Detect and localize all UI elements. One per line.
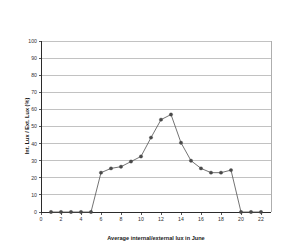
x-tick-label: 8	[120, 216, 123, 222]
chart-container: 0246810121416182022 01020304050607080901…	[0, 0, 298, 251]
data-point-marker	[109, 167, 112, 170]
data-point-marker	[49, 210, 52, 213]
data-point-marker	[169, 113, 172, 116]
data-point-marker	[69, 210, 72, 213]
y-tick-label: 60	[31, 106, 37, 112]
data-point-marker	[59, 210, 62, 213]
data-point-marker	[99, 171, 102, 174]
x-tick-label: 10	[138, 216, 144, 222]
data-point-marker	[219, 171, 222, 174]
x-tick-label: 6	[100, 216, 103, 222]
x-tick-label: 18	[218, 216, 224, 222]
y-tick-label: 30	[31, 158, 37, 164]
y-tick-label: 70	[31, 89, 37, 95]
y-axis-title: Int. Lux / Ext. Lux (%)	[24, 98, 30, 155]
x-tick-label: 0	[40, 216, 43, 222]
y-tick-label: 90	[31, 55, 37, 61]
data-point-marker	[79, 210, 82, 213]
y-tick-label: 50	[31, 123, 37, 129]
y-tick-label: 100	[28, 38, 37, 44]
x-tick-label: 14	[178, 216, 184, 222]
data-point-marker	[189, 159, 192, 162]
y-tick-label: 10	[31, 192, 37, 198]
y-tick-label: 40	[31, 141, 37, 147]
chart-background	[0, 0, 298, 251]
y-tick-label: 20	[31, 175, 37, 181]
data-point-marker	[199, 167, 202, 170]
data-point-marker	[119, 165, 122, 168]
data-point-marker	[149, 136, 152, 139]
line-chart: 0246810121416182022 01020304050607080901…	[0, 0, 298, 251]
x-tick-label: 12	[158, 216, 164, 222]
x-tick-label: 16	[198, 216, 204, 222]
x-tick-label: 20	[238, 216, 244, 222]
data-point-marker	[229, 168, 232, 171]
data-point-marker	[89, 210, 92, 213]
x-tick-label: 22	[258, 216, 264, 222]
data-point-marker	[129, 160, 132, 163]
data-point-marker	[239, 210, 242, 213]
y-tick-label: 80	[31, 72, 37, 78]
data-point-marker	[249, 210, 252, 213]
y-tick-label: 0	[34, 209, 37, 215]
x-axis-title: Average internal/external lux in June	[107, 235, 204, 241]
data-point-marker	[209, 171, 212, 174]
x-tick-label: 2	[60, 216, 63, 222]
data-point-marker	[159, 118, 162, 121]
data-point-marker	[259, 210, 262, 213]
data-point-marker	[139, 155, 142, 158]
x-tick-label: 4	[80, 216, 83, 222]
data-point-marker	[179, 141, 182, 144]
